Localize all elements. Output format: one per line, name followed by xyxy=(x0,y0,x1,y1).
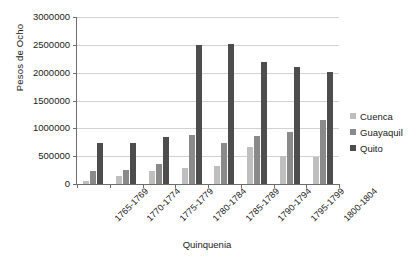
legend-label: Cuenca xyxy=(360,111,393,122)
bar-group xyxy=(241,17,274,184)
bar-guayaquil xyxy=(189,135,195,184)
bar-quito xyxy=(327,72,333,184)
bar-cuenca xyxy=(280,156,286,184)
plot-area xyxy=(76,17,339,185)
legend-item-guayaquil[interactable]: Guayaquil xyxy=(350,124,403,140)
bar-cuenca xyxy=(214,166,220,184)
bar-quito xyxy=(261,62,267,184)
bar-quito xyxy=(97,143,103,184)
bar-group xyxy=(306,17,339,184)
bar-group xyxy=(77,17,110,184)
x-axis-title: Quinquenia xyxy=(76,239,338,250)
x-axis-tick-label: 1765-1769 xyxy=(112,186,150,224)
bar-guayaquil xyxy=(221,143,227,184)
bar-cuenca xyxy=(149,171,155,184)
bar-guayaquil xyxy=(320,120,326,184)
x-axis-tick-label: 1775-1779 xyxy=(178,186,216,224)
bar-group xyxy=(175,17,208,184)
bar-guayaquil xyxy=(156,164,162,184)
chart-legend: CuencaGuayaquilQuito xyxy=(350,108,403,156)
bar-guayaquil xyxy=(123,170,129,184)
bar-cuenca xyxy=(313,157,319,184)
y-axis-tick-label: 2500000 xyxy=(12,40,70,50)
x-axis-tick-label: 1780-1784 xyxy=(210,186,248,224)
legend-swatch-icon xyxy=(350,129,356,135)
bar-group xyxy=(143,17,176,184)
bar-chart: Pesos de Ocho 30000002500000200000015000… xyxy=(0,0,419,264)
bar-cuenca xyxy=(83,181,89,184)
bar-group xyxy=(274,17,307,184)
bar-cuenca xyxy=(247,147,253,184)
bar-quito xyxy=(196,45,202,184)
bar-guayaquil xyxy=(287,132,293,184)
x-axis-tick-label: 1785-1789 xyxy=(243,186,281,224)
bar-guayaquil xyxy=(90,171,96,184)
legend-swatch-icon xyxy=(350,145,356,151)
y-axis-tick-label: 1500000 xyxy=(12,96,70,106)
bar-quito xyxy=(294,67,300,184)
bar-quito xyxy=(228,44,234,184)
y-axis-tick-label: 1000000 xyxy=(12,123,70,133)
legend-swatch-icon xyxy=(350,113,356,119)
x-axis-tick-label: 1790-1794 xyxy=(276,186,314,224)
bar-group xyxy=(110,17,143,184)
bar-guayaquil xyxy=(254,136,260,184)
y-axis-tick-label: 0 xyxy=(12,179,70,189)
legend-item-cuenca[interactable]: Cuenca xyxy=(350,108,403,124)
x-axis-tick-label: 1800-1804 xyxy=(341,186,379,224)
legend-label: Quito xyxy=(360,143,383,154)
x-axis-tick-label: 1795-1799 xyxy=(309,186,347,224)
y-axis-tick-label: 2000000 xyxy=(12,68,70,78)
legend-item-quito[interactable]: Quito xyxy=(350,140,403,156)
y-axis-tick-label: 3000000 xyxy=(12,12,70,22)
bar-cuenca xyxy=(182,168,188,184)
bar-group xyxy=(208,17,241,184)
y-axis-tick-label: 500000 xyxy=(12,151,70,161)
legend-label: Guayaquil xyxy=(360,127,403,138)
bar-quito xyxy=(163,137,169,184)
x-axis-tick-label: 1770-1774 xyxy=(145,186,183,224)
bar-quito xyxy=(130,143,136,184)
bar-cuenca xyxy=(116,176,122,184)
y-axis-tick-labels: 3000000250000020000001500000100000050000… xyxy=(12,0,70,264)
